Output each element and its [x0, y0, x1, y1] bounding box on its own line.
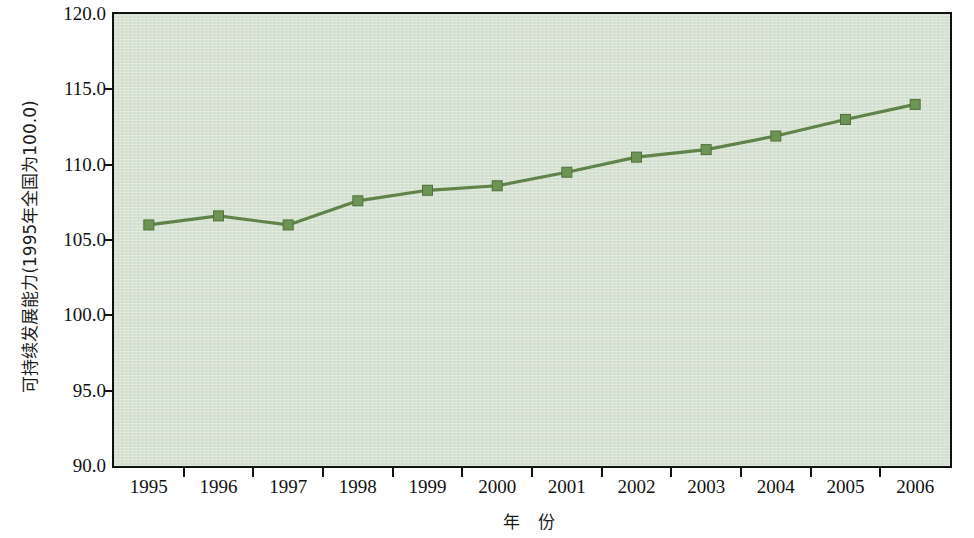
x-axis-tick-label: 1998: [323, 476, 393, 499]
y-axis-tick-label: 115.0: [32, 79, 106, 98]
x-axis-tick-label: 2003: [671, 476, 741, 499]
x-axis-tick-label: 2004: [741, 476, 811, 499]
x-axis-title: 年 份: [112, 508, 952, 533]
x-axis-tick-label: 2002: [602, 476, 672, 499]
y-axis-tick-mark: [104, 88, 113, 90]
x-axis-tick-label: 1995: [114, 476, 184, 499]
y-axis-tick-label: 105.0: [32, 230, 106, 249]
x-axis-tick-label: 2000: [462, 476, 532, 499]
y-axis-tick-label-group: 120.0115.0110.0105.0100.095.090.0: [24, 0, 106, 538]
y-axis-tick-label: 100.0: [32, 305, 106, 324]
y-axis-tick-mark: [104, 314, 113, 316]
x-axis-tick-label: 2006: [880, 476, 950, 499]
x-axis-tick-label: 1997: [253, 476, 323, 499]
sustainability-capacity-line-chart: 可持续发展能力(1995年全国为100.0) 120.0115.0110.010…: [0, 0, 974, 538]
x-axis-tick-label: 2005: [811, 476, 881, 499]
y-axis-tick-label: 120.0: [32, 4, 106, 23]
y-axis-tick-label: 90.0: [32, 456, 106, 475]
x-axis-tick-label: 1999: [393, 476, 463, 499]
x-axis-tick-label-group: 1995199619971998199920002001200220032004…: [112, 476, 952, 504]
y-axis-tick-mark: [104, 239, 113, 241]
y-axis-tick-mark: [104, 390, 113, 392]
y-axis-tick-mark: [104, 164, 113, 166]
x-axis-tick-group: [112, 12, 952, 482]
x-axis-tick-label: 1996: [184, 476, 254, 499]
x-axis-tick-label: 2001: [532, 476, 602, 499]
y-axis-tick-label: 110.0: [32, 155, 106, 174]
y-axis-tick-label: 95.0: [32, 381, 106, 400]
